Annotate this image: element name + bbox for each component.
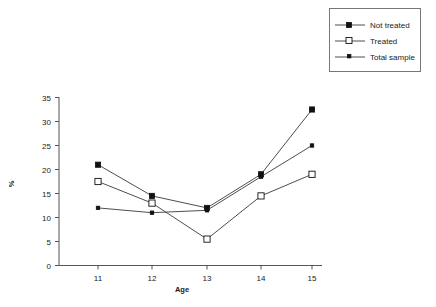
legend-item-treated[interactable]: Treated bbox=[335, 37, 397, 46]
legend-item-total-sample[interactable]: Total sample bbox=[335, 53, 415, 62]
x-tick-label-15: 15 bbox=[308, 274, 317, 283]
y-axis-title: % bbox=[7, 180, 16, 187]
x-axis-ticks bbox=[98, 266, 312, 270]
marker-open-square bbox=[149, 200, 155, 206]
legend-label-1: Treated bbox=[370, 37, 397, 46]
marker-open-square bbox=[309, 171, 315, 177]
marker-open-square bbox=[258, 193, 264, 199]
legend: Not treated Treated Total sample bbox=[330, 9, 421, 72]
marker-dot bbox=[96, 206, 99, 209]
marker-open-square bbox=[95, 178, 101, 184]
series-not-treated bbox=[95, 107, 314, 211]
y-tick-label-25: 25 bbox=[42, 142, 51, 151]
marker-open-square bbox=[204, 236, 210, 242]
x-axis-title: Age bbox=[175, 285, 189, 294]
y-tick-label-5: 5 bbox=[47, 238, 52, 247]
y-axis-ticks bbox=[55, 98, 59, 266]
marker-dot bbox=[205, 209, 208, 212]
y-tick-label-20: 20 bbox=[42, 166, 51, 175]
small-dot-icon bbox=[348, 55, 351, 58]
series-line bbox=[98, 110, 312, 208]
legend-item-not-treated[interactable]: Not treated bbox=[335, 21, 410, 30]
marker-filled-square bbox=[149, 193, 154, 198]
y-tick-label-30: 30 bbox=[42, 118, 51, 127]
series-line bbox=[98, 146, 312, 213]
y-tick-label-35: 35 bbox=[42, 94, 51, 103]
marker-dot bbox=[259, 175, 262, 178]
legend-label-0: Not treated bbox=[370, 21, 410, 30]
legend-label-2: Total sample bbox=[370, 53, 415, 62]
line-chart: 0 5 10 15 20 25 30 35 % 11 12 13 14 15 A… bbox=[0, 0, 436, 307]
x-tick-label-13: 13 bbox=[203, 274, 212, 283]
series-layer bbox=[95, 107, 315, 242]
x-tick-label-12: 12 bbox=[148, 274, 157, 283]
y-tick-label-15: 15 bbox=[42, 190, 51, 199]
marker-filled-square bbox=[309, 107, 314, 112]
y-tick-label-10: 10 bbox=[42, 214, 51, 223]
marker-dot bbox=[310, 144, 313, 147]
marker-filled-square bbox=[95, 162, 100, 167]
x-tick-label-14: 14 bbox=[257, 274, 266, 283]
marker-dot bbox=[150, 211, 153, 214]
open-square-icon bbox=[346, 38, 352, 44]
filled-square-icon bbox=[347, 23, 352, 28]
chart-container: 0 5 10 15 20 25 30 35 % 11 12 13 14 15 A… bbox=[0, 0, 436, 307]
series-total-sample bbox=[96, 144, 313, 215]
y-tick-label-0: 0 bbox=[47, 262, 52, 271]
x-tick-label-11: 11 bbox=[94, 274, 103, 283]
